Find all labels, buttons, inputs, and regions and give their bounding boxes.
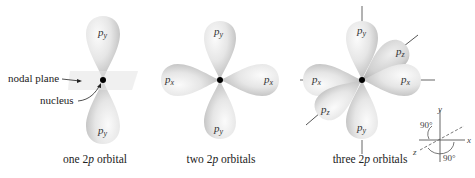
panel-one-2p-orbital: py py nodal plane nucleus bbox=[8, 16, 138, 144]
key-y-label: y bbox=[437, 104, 442, 114]
nucleus-label: nucleus bbox=[40, 94, 74, 106]
key-angle-xz: 90° bbox=[443, 153, 456, 163]
caption-three-2p-orbitals: three 2p orbitals bbox=[333, 153, 408, 165]
z-axis-front bbox=[306, 113, 320, 125]
axes-key: y x z 90° 90° bbox=[412, 104, 471, 163]
nucleus-dot bbox=[100, 77, 106, 83]
panel-three-2p-orbitals: py py px px pz pz bbox=[300, 6, 435, 154]
orbitals-diagram: py py nodal plane nucleus py py px px bbox=[0, 0, 475, 178]
key-x-label: x bbox=[466, 135, 471, 145]
key-angle-xy: 90° bbox=[420, 120, 433, 130]
nucleus-dot bbox=[359, 77, 365, 83]
p-orbitals-figure: py py nodal plane nucleus py py px px bbox=[0, 0, 475, 178]
z-axis-back bbox=[404, 35, 418, 46]
panel-two-2p-orbitals: py py px px bbox=[161, 21, 279, 139]
caption-one-2p-orbital: one 2p orbital bbox=[63, 153, 127, 165]
caption-two-2p-orbitals: two 2p orbitals bbox=[187, 153, 256, 165]
nucleus-dot bbox=[217, 77, 223, 83]
nodal-plane-label: nodal plane bbox=[8, 72, 59, 84]
key-z-label: z bbox=[412, 147, 417, 157]
